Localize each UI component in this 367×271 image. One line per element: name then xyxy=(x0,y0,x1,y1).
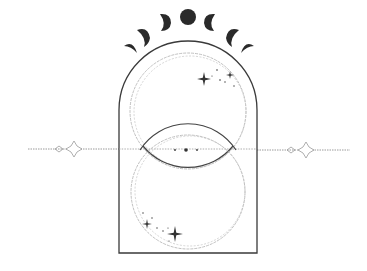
moon-waning-crescent-thick-icon xyxy=(204,14,215,31)
horizon-line-right xyxy=(257,142,350,158)
sparkle-stars-upper xyxy=(197,69,235,87)
moon-waxing-crescent-thick-icon xyxy=(160,14,171,31)
moon-waning-crescent-icon xyxy=(226,29,239,47)
horizon-line-left xyxy=(28,141,119,157)
moon-full-icon xyxy=(180,9,196,25)
celestial-illustration xyxy=(0,0,367,271)
lower-circle xyxy=(131,124,245,249)
moon-phase-row xyxy=(124,9,254,53)
moon-waning-crescent-thin-icon xyxy=(241,44,254,53)
center-stars xyxy=(174,148,198,152)
moon-waxing-crescent-icon xyxy=(137,29,150,47)
moon-waxing-crescent-thin-icon xyxy=(124,44,137,53)
